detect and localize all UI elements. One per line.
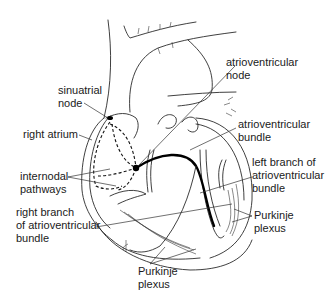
leader-internodal-2	[68, 177, 116, 186]
superior-vena-cava	[104, 20, 111, 118]
label-purkinje-plexus-bottom: Purkinje plexus	[138, 265, 178, 291]
label-purkinje-plexus-right: Purkinje plexus	[254, 209, 294, 235]
leader-av-bundle	[190, 128, 236, 150]
leader-purkinje-right-1	[234, 209, 252, 216]
label-left-branch: left branch of atrioventricular bundle	[252, 156, 324, 195]
label-internodal-pathways: internodal pathways	[20, 170, 68, 196]
aorta	[130, 32, 236, 112]
heart-conduction-diagram: sinuatrial node right atrium internodal …	[0, 0, 333, 300]
internodal-pathways	[94, 122, 122, 189]
label-av-node: atrioventricular node	[226, 56, 298, 82]
label-av-bundle: atrioventricular bundle	[238, 118, 310, 144]
label-right-branch: right branch of atrioventricular bundle	[16, 206, 100, 245]
label-sinuatrial-node: sinuatrial node	[58, 84, 102, 110]
leader-av-node	[138, 66, 235, 166]
label-right-atrium: right atrium	[23, 128, 78, 141]
heart-illustration	[0, 0, 333, 300]
